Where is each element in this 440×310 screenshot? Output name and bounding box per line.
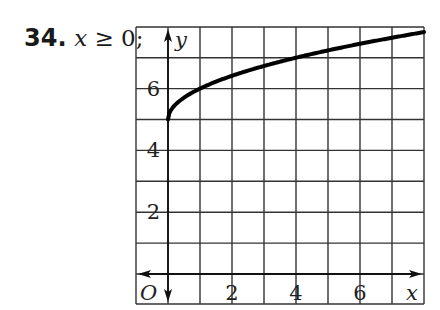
y-tick-label: 6 (147, 77, 160, 101)
x-tick-label: 4 (289, 281, 302, 305)
x-tick-label: 6 (353, 281, 366, 305)
x-axis-label: x (406, 281, 418, 305)
y-tick-label: 4 (147, 138, 160, 162)
y-axis-label: y (174, 28, 188, 52)
y-tick-label: 2 (147, 200, 160, 224)
x-tick-label: 2 (225, 281, 238, 305)
graph: 246246Oxy (0, 0, 440, 310)
origin-label: O (140, 281, 157, 305)
